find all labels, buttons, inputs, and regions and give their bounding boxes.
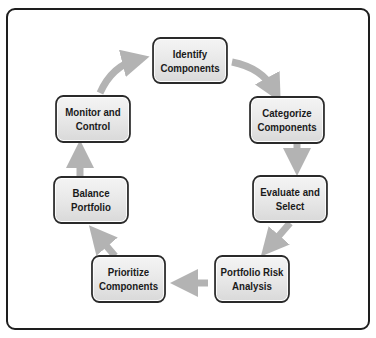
arrow-prioritize-to-balance bbox=[98, 236, 115, 256]
arrow-evaluate-to-risk bbox=[270, 223, 290, 246]
step-evaluate-and-select: Evaluate and Select bbox=[252, 175, 328, 223]
step-prioritize-components: Prioritize Components bbox=[91, 255, 166, 303]
step-portfolio-risk-analysis: Portfolio Risk Analysis bbox=[214, 255, 290, 303]
arrow-identify-to-categorize bbox=[232, 62, 274, 90]
step-label: Categorize Components bbox=[257, 106, 316, 134]
step-label: Prioritize Components bbox=[99, 265, 158, 293]
step-categorize-components: Categorize Components bbox=[249, 96, 325, 144]
step-label: Evaluate and Select bbox=[260, 185, 320, 213]
step-monitor-and-control: Monitor and Control bbox=[55, 95, 131, 143]
step-label: Monitor and Control bbox=[65, 105, 120, 133]
step-identify-components: Identify Components bbox=[152, 37, 228, 84]
step-balance-portfolio: Balance Portfolio bbox=[53, 176, 129, 224]
step-label: Balance Portfolio bbox=[71, 186, 111, 214]
step-label: Portfolio Risk Analysis bbox=[221, 265, 284, 293]
arrow-monitor-to-identify bbox=[100, 60, 136, 93]
step-label: Identify Components bbox=[160, 47, 219, 75]
